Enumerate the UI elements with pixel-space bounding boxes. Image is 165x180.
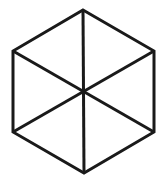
- hexagon-diagram: [0, 0, 165, 180]
- diagram-canvas: [0, 0, 165, 180]
